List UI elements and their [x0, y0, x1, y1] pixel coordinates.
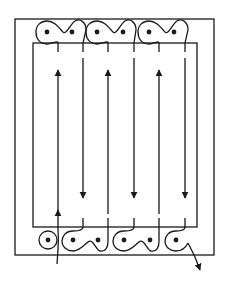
conductor-dots	[45, 30, 179, 243]
bottom-winding	[39, 218, 188, 251]
vertical-conductors	[58, 58, 185, 214]
dot-icon	[46, 238, 51, 243]
dot-icon	[96, 238, 101, 243]
coil-diagram	[0, 0, 229, 284]
dot-icon	[174, 238, 179, 243]
dot-icon	[172, 30, 177, 35]
dot-icon	[45, 30, 50, 35]
dot-icon	[122, 238, 127, 243]
dot-icon	[147, 30, 152, 35]
dot-icon	[95, 30, 100, 35]
lead-out-wire	[188, 243, 200, 270]
lead-in-wire	[57, 210, 58, 264]
dot-icon	[121, 30, 126, 35]
outer-frame	[15, 19, 214, 255]
dot-icon	[71, 238, 76, 243]
top-winding	[36, 20, 188, 52]
dot-icon	[148, 238, 153, 243]
coil-diagram-svg	[0, 0, 229, 284]
dot-icon	[70, 30, 75, 35]
